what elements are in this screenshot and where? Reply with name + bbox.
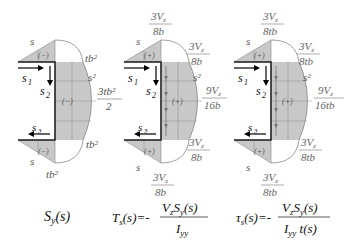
svg-text:3Vz: 3Vz bbox=[188, 136, 204, 150]
svg-text:(−): (−) bbox=[38, 147, 49, 156]
svg-text:tb²: tb² bbox=[85, 52, 98, 64]
svg-text:s: s bbox=[40, 84, 45, 98]
svg-text:3Vz: 3Vz bbox=[188, 40, 204, 54]
svg-text:3: 3 bbox=[143, 127, 148, 135]
svg-text:s: s bbox=[22, 71, 27, 85]
svg-text:(−): (−) bbox=[62, 97, 73, 106]
svg-text:2: 2 bbox=[46, 91, 50, 100]
svg-text:s: s bbox=[32, 121, 36, 133]
svg-text:s: s bbox=[146, 84, 151, 98]
svg-text:8tb: 8tb bbox=[263, 186, 278, 198]
panel-shear-stress: s (+) (+) (+) s1 s2 s3 s² s 3Vz 8tb 3Vz … bbox=[234, 10, 344, 238]
svg-text:8tb: 8tb bbox=[301, 151, 316, 163]
svg-text:VzSy(s): VzSy(s) bbox=[282, 200, 318, 217]
svg-text:(+): (+) bbox=[254, 51, 265, 60]
panel-first-moment: s (−) (−) (−) s1 s2 s3 tb² s² 3tb² 2 tb²… bbox=[18, 35, 122, 226]
svg-text:Iyy t(s): Iyy t(s) bbox=[283, 221, 317, 238]
svg-text:1: 1 bbox=[244, 78, 248, 87]
svg-text:(+): (+) bbox=[282, 97, 293, 106]
svg-text:8tb: 8tb bbox=[299, 55, 314, 67]
svg-text:s: s bbox=[138, 121, 142, 133]
svg-text:τs(s)=-: τs(s)=- bbox=[236, 210, 271, 227]
svg-text:Sy(s): Sy(s) bbox=[44, 209, 71, 226]
svg-text:3Vz: 3Vz bbox=[152, 171, 168, 185]
svg-text:3Vz: 3Vz bbox=[300, 136, 316, 150]
svg-text:(+): (+) bbox=[144, 147, 155, 156]
svg-text:VzSy(s): VzSy(s) bbox=[162, 200, 198, 217]
svg-text:(+): (+) bbox=[172, 97, 183, 106]
svg-text:8b: 8b bbox=[153, 25, 165, 37]
svg-text:s: s bbox=[246, 161, 250, 173]
svg-text:s: s bbox=[248, 121, 252, 133]
panel-shear-flow: s (+) (+) (+) s1 s2 s3 s² s 3Vz 8b 3Vz 8… bbox=[112, 10, 227, 238]
svg-text:s: s bbox=[128, 71, 133, 85]
svg-text:3: 3 bbox=[37, 127, 42, 135]
svg-text:(+): (+) bbox=[254, 147, 265, 156]
svg-text:s: s bbox=[238, 71, 243, 85]
svg-text:s²: s² bbox=[193, 71, 201, 83]
svg-text:16tb: 16tb bbox=[315, 99, 335, 111]
svg-text:9Vz: 9Vz bbox=[206, 84, 221, 98]
svg-text:8b: 8b bbox=[155, 186, 167, 198]
svg-text:s: s bbox=[136, 35, 140, 47]
svg-text:s²: s² bbox=[88, 71, 96, 83]
svg-text:tb²: tb² bbox=[86, 138, 99, 150]
svg-text:16b: 16b bbox=[204, 99, 221, 111]
svg-text:3tb²: 3tb² bbox=[97, 85, 116, 97]
svg-text:s: s bbox=[246, 35, 250, 47]
svg-text:tb²: tb² bbox=[46, 168, 59, 180]
svg-text:3Vz: 3Vz bbox=[298, 40, 314, 54]
svg-text:Ts(s)=-: Ts(s)=- bbox=[112, 210, 150, 227]
shear-flow-diagram: s (−) (−) (−) s1 s2 s3 tb² s² 3tb² 2 tb²… bbox=[0, 0, 348, 251]
svg-text:8b: 8b bbox=[191, 55, 203, 67]
svg-text:(+): (+) bbox=[144, 51, 155, 60]
svg-text:8tb: 8tb bbox=[263, 25, 278, 37]
svg-text:1: 1 bbox=[28, 78, 32, 87]
svg-text:s: s bbox=[256, 84, 261, 98]
svg-text:s: s bbox=[30, 155, 34, 167]
svg-text:2: 2 bbox=[106, 100, 112, 112]
svg-text:3Vz: 3Vz bbox=[262, 171, 278, 185]
svg-text:3: 3 bbox=[253, 127, 258, 135]
svg-text:s: s bbox=[30, 35, 34, 47]
svg-text:1: 1 bbox=[134, 78, 138, 87]
svg-text:Iyy: Iyy bbox=[175, 221, 188, 238]
svg-text:s²: s² bbox=[303, 71, 311, 83]
svg-text:(−): (−) bbox=[38, 51, 49, 60]
svg-text:8b: 8b bbox=[191, 151, 203, 163]
svg-text:9Vz: 9Vz bbox=[318, 84, 333, 98]
svg-text:s: s bbox=[136, 161, 140, 173]
svg-text:2: 2 bbox=[262, 91, 266, 100]
svg-text:3Vz: 3Vz bbox=[150, 10, 166, 24]
svg-text:2: 2 bbox=[152, 91, 156, 100]
svg-text:3Vz: 3Vz bbox=[262, 10, 278, 24]
